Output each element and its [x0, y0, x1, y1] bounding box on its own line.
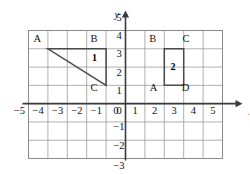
- axis-name-labels: xy: [114, 9, 250, 117]
- vertex-label-2-A: A: [150, 82, 158, 93]
- x-tick-3: 3: [171, 105, 176, 116]
- coordinate-grid-figure: −5−4−3−2−1012345543210−1−2−3 xy ABCABCD …: [0, 0, 249, 175]
- y-tick--2: −2: [113, 140, 124, 151]
- y-tick--3: −3: [113, 160, 124, 171]
- x-tick--4: −4: [33, 105, 45, 116]
- y-tick-2: 2: [116, 67, 121, 78]
- vertex-label-2-C: C: [183, 33, 190, 44]
- shape-vertex-labels: ABCABCD: [33, 33, 189, 93]
- x-tick--2: −2: [71, 105, 82, 116]
- x-tick--1: −1: [91, 105, 102, 116]
- vertex-label-2-D: D: [182, 82, 190, 93]
- y-tick-0: 0: [116, 105, 121, 116]
- x-tick--3: −3: [52, 105, 63, 116]
- y-tick--1: −1: [113, 121, 124, 132]
- x-tick--5: −5: [14, 105, 25, 116]
- x-tick-2: 2: [152, 105, 157, 116]
- coordinate-plane-svg: −5−4−3−2−1012345543210−1−2−3 xy ABCABCD …: [0, 0, 249, 175]
- shape-number-labels: 12: [92, 52, 176, 72]
- y-axis-label: y: [114, 9, 120, 20]
- y-tick-3: 3: [116, 48, 121, 59]
- x-tick-1: 1: [133, 105, 138, 116]
- shape-number-2: 2: [171, 61, 176, 72]
- x-tick-4: 4: [191, 105, 197, 116]
- vertex-label-1-C: C: [91, 82, 98, 93]
- x-axis-label: x: [248, 106, 250, 117]
- vertex-label-1-B: B: [91, 33, 98, 44]
- x-tick-5: 5: [210, 105, 215, 116]
- shape-number-1: 1: [92, 52, 97, 63]
- y-tick-4: 4: [116, 30, 122, 41]
- y-tick-1: 1: [116, 85, 121, 96]
- vertex-label-1-A: A: [33, 33, 41, 44]
- vertex-label-2-B: B: [149, 33, 156, 44]
